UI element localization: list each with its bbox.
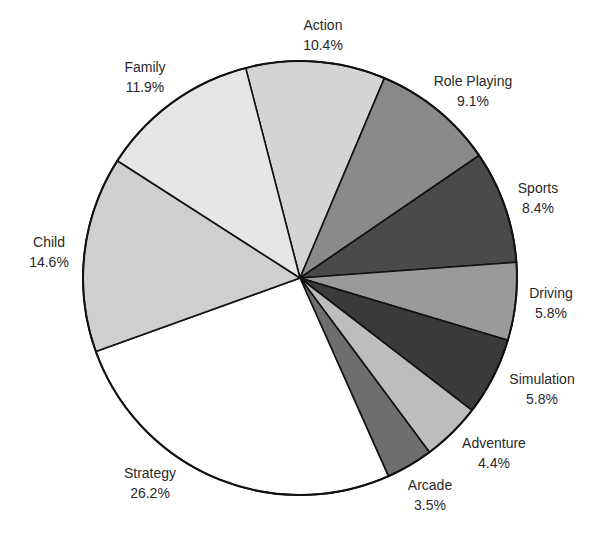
slice-label: Simulation (509, 371, 574, 387)
slice-percent: 11.9% (126, 79, 165, 95)
slice-label: Action (304, 17, 343, 33)
slice-percent: 5.8% (526, 391, 558, 407)
slice-label: Family (124, 59, 165, 75)
slice-percent: 9.1% (457, 93, 489, 109)
slice-percent: 4.4% (478, 455, 510, 471)
slice-percent: 5.8% (535, 305, 567, 321)
slice-label: Arcade (408, 477, 453, 493)
slice-percent: 8.4% (522, 200, 554, 216)
slice-percent: 14.6% (29, 254, 69, 270)
pie-chart: Action10.4%Role Playing9.1%Sports8.4%Dri… (0, 0, 607, 540)
pie-slices (83, 61, 517, 495)
slice-percent: 10.4% (303, 37, 343, 53)
slice-label: Adventure (462, 435, 526, 451)
slice-label: Role Playing (434, 73, 513, 89)
slice-percent: 3.5% (414, 497, 446, 513)
slice-label: Strategy (124, 465, 176, 481)
slice-percent: 26.2% (130, 485, 170, 501)
slice-label: Driving (529, 285, 573, 301)
slice-label: Sports (518, 180, 558, 196)
slice-label: Child (33, 234, 65, 250)
